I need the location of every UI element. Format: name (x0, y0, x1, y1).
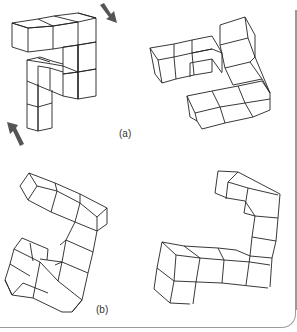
panel-label-b: (b) (96, 305, 108, 315)
panel-label-a: (a) (119, 129, 131, 139)
cube-assembly-b-right (0, 0, 297, 332)
mental-rotation-figure: (a) (b) (0, 0, 297, 332)
